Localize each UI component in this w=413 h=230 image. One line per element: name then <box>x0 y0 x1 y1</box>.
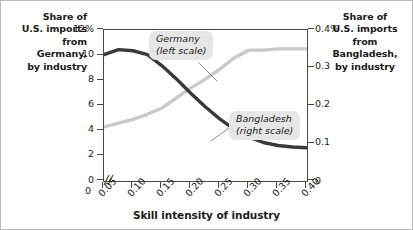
y-left-tick-6 <box>97 28 103 29</box>
y-left-tick-label-5: 10 <box>54 48 94 59</box>
y-right-tick-label-4: 0.4% <box>315 23 355 34</box>
y-left-tick-1 <box>97 154 103 155</box>
y-right-tick-label-2: 0.2 <box>315 98 355 109</box>
y-right-tick-label-0: 0 <box>315 175 355 186</box>
bangladesh-leader-line <box>211 128 229 141</box>
germany-series-callout: Germany (left scale) <box>149 31 213 60</box>
y-left-tick-4 <box>97 79 103 80</box>
y-left-tick-label-6: 12% <box>54 23 94 34</box>
y-right-tick-label-3: 0.3 <box>315 60 355 71</box>
bangladesh-series-callout: Bangladesh (right scale) <box>229 111 300 140</box>
germany-callout-line-2: (left scale) <box>156 45 206 57</box>
y-left-tick-label-3: 6 <box>54 98 94 109</box>
germany-callout-line-1: Germany <box>156 33 200 44</box>
y-left-tick-label-0: 0 <box>54 174 94 185</box>
y-right-tick-label-1: 0.1 <box>315 136 355 147</box>
bangladesh-callout-line-2: (right scale) <box>236 125 293 137</box>
x-tick-label-0: 0 <box>85 185 91 196</box>
y-right-tick-1 <box>308 142 314 143</box>
y-left-tick-0 <box>97 179 103 180</box>
germany-leader-line <box>199 63 217 81</box>
x-axis-title: Skill intensity of industry <box>1 209 412 221</box>
y-left-tick-label-1: 2 <box>54 148 94 159</box>
y-left-tick-3 <box>97 104 103 105</box>
chart-figure: Share of U.S. imports from Germany, by i… <box>0 0 413 230</box>
bangladesh-callout-line-1: Bangladesh <box>236 113 292 124</box>
y-right-tick-3 <box>308 66 314 67</box>
y-right-tick-4 <box>308 28 314 29</box>
y-left-tick-label-4: 8 <box>54 73 94 84</box>
y-left-tick-5 <box>97 54 103 55</box>
y-left-tick-label-2: 4 <box>54 123 94 134</box>
y-left-tick-2 <box>97 129 103 130</box>
y-right-tick-2 <box>308 104 314 105</box>
